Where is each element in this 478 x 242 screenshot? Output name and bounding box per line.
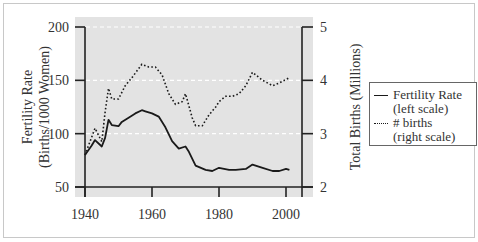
plot-background [75, 17, 313, 197]
x-tick-label: 1940 [71, 207, 99, 222]
x-tick-label: 1980 [205, 207, 233, 222]
right-tick-label: 3 [320, 127, 327, 142]
right-tick-label: 2 [320, 180, 327, 195]
right-tick-label: 4 [320, 73, 327, 88]
legend-label-births-2: (right scale) [393, 130, 455, 144]
legend: Fertility Rate (left scale) # births (ri… [369, 82, 477, 146]
right-axis-title: Total Births (Millions) [348, 43, 364, 170]
legend-label-fertility-2: (left scale) [393, 102, 448, 116]
left-tick-label: 200 [48, 20, 69, 35]
x-tick-label: 1960 [138, 207, 166, 222]
right-tick-label: 5 [320, 20, 327, 35]
left-axis-title-line1: Fertility Rate [20, 70, 35, 144]
legend-label-births-1: # births [393, 116, 432, 130]
x-tick-label: 2000 [272, 207, 300, 222]
dotted-line-icon [374, 123, 388, 124]
solid-line-icon [374, 95, 388, 96]
left-axis-title-line2: (Births/1000 Women) [37, 46, 53, 168]
left-tick-label: 50 [55, 180, 69, 195]
legend-label-fertility-1: Fertility Rate [393, 88, 462, 102]
